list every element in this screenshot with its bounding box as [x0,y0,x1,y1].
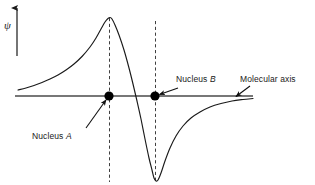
molecular-axis-label: Molecular axis [240,74,296,84]
nucleus-a-label: Nucleus A [32,131,72,141]
nucleus-a-leader-arrow [86,100,106,128]
psi-axis-label: ψ [4,19,11,31]
nucleus-b-label-prefix: Nucleus [176,74,210,84]
nucleus-a-dot [104,91,113,100]
psi-wavefunction-curve [18,17,253,181]
nucleus-b-label: Nucleus B [176,74,216,84]
nucleus-b-leader-arrow [160,88,179,95]
nucleus-b-dot [150,91,159,100]
molecular-axis-leader-arrow [236,86,250,97]
nucleus-a-label-symbol: A [66,131,72,141]
nucleus-a-label-prefix: Nucleus [32,131,66,141]
nucleus-b-label-symbol: B [210,74,216,84]
figure-canvas [0,0,315,185]
orbital-wavefunction-figure: ψ Nucleus A Nucleus B Molecular axis [0,0,315,185]
